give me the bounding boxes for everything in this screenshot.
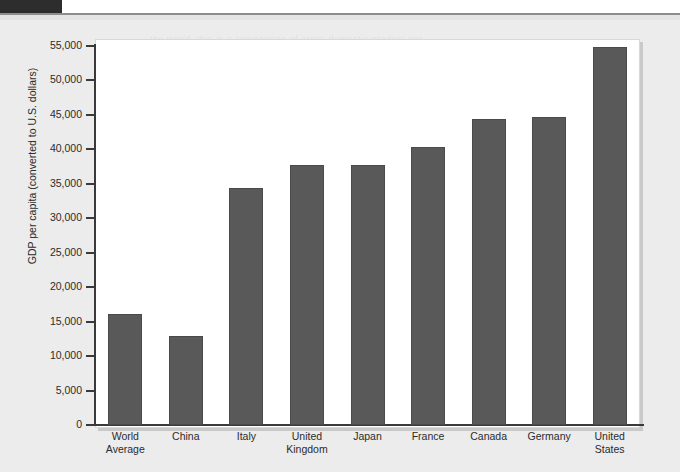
- x-axis-label-france: France: [398, 430, 459, 443]
- x-axis-label-world-average: WorldAverage: [95, 430, 156, 456]
- x-axis-label-line: Germany: [519, 430, 580, 443]
- page-corner-marker: [0, 0, 62, 13]
- x-axis-label-line: States: [579, 443, 640, 456]
- y-axis-tick-label: 0: [4, 419, 82, 430]
- x-axis-label-line: World: [95, 430, 156, 443]
- bar-canada: [472, 119, 506, 425]
- bar-united-kingdom: [290, 165, 324, 425]
- x-axis-label-line: France: [398, 430, 459, 443]
- bar-japan: [351, 165, 385, 425]
- y-axis-tick-mark: [86, 148, 94, 150]
- page-header-rule: [0, 13, 680, 15]
- gdp-per-capita-bar-chart: GDP per capita (converted to U.S. dollar…: [0, 20, 680, 472]
- x-axis-label-line: China: [156, 430, 217, 443]
- y-axis-tick-label: 20,000: [4, 281, 82, 292]
- y-axis-tick-label: 30,000: [4, 212, 82, 223]
- y-axis-tick-label: 45,000: [4, 109, 82, 120]
- y-axis-tick-mark: [86, 321, 94, 323]
- y-axis-tick-mark: [86, 355, 94, 357]
- y-axis-tick-label: 10,000: [4, 350, 82, 361]
- x-axis-label-united-kingdom: UnitedKingdom: [277, 430, 338, 456]
- bar-united-states: [593, 47, 627, 425]
- x-axis-label-line: Kingdom: [277, 443, 338, 456]
- x-axis-label-canada: Canada: [458, 430, 519, 443]
- bar-italy: [229, 188, 263, 425]
- x-axis-label-line: Canada: [458, 430, 519, 443]
- x-axis-label-line: Italy: [216, 430, 277, 443]
- y-axis-tick-label: 35,000: [4, 178, 82, 189]
- y-axis-tick-mark: [86, 217, 94, 219]
- x-axis-label-united-states: UnitedStates: [579, 430, 640, 456]
- x-axis-labels: WorldAverageChinaItalyUnitedKingdomJapan…: [95, 430, 640, 472]
- y-axis-tick-mark: [86, 390, 94, 392]
- y-axis-tick-label: 25,000: [4, 247, 82, 258]
- x-axis-label-line: United: [579, 430, 640, 443]
- y-axis-tick-label: 50,000: [4, 74, 82, 85]
- y-axis-tick-mark: [86, 79, 94, 81]
- y-axis-tick-label: 15,000: [4, 316, 82, 327]
- bar-series: [95, 39, 640, 425]
- y-axis-tick-mark: [86, 45, 94, 47]
- x-axis-label-line: Japan: [337, 430, 398, 443]
- bar-germany: [532, 117, 566, 425]
- bar-china: [169, 336, 203, 425]
- x-axis-label-germany: Germany: [519, 430, 580, 443]
- y-axis-tick-mark: [86, 286, 94, 288]
- y-axis-tick-mark: [86, 114, 94, 116]
- y-axis-tick-mark: [86, 183, 94, 185]
- y-axis-tick-label: 55,000: [4, 40, 82, 51]
- y-axis-tick-mark: [86, 424, 94, 426]
- y-axis-tick-label: 40,000: [4, 143, 82, 154]
- bar-france: [411, 147, 445, 425]
- y-axis-tick-mark: [86, 252, 94, 254]
- bar-world-average: [108, 314, 142, 425]
- x-axis-label-line: United: [277, 430, 338, 443]
- y-axis-tick-label: 5,000: [4, 385, 82, 396]
- x-axis-label-japan: Japan: [337, 430, 398, 443]
- x-axis-label-line: Average: [95, 443, 156, 456]
- x-axis-label-italy: Italy: [216, 430, 277, 443]
- x-axis-label-china: China: [156, 430, 217, 443]
